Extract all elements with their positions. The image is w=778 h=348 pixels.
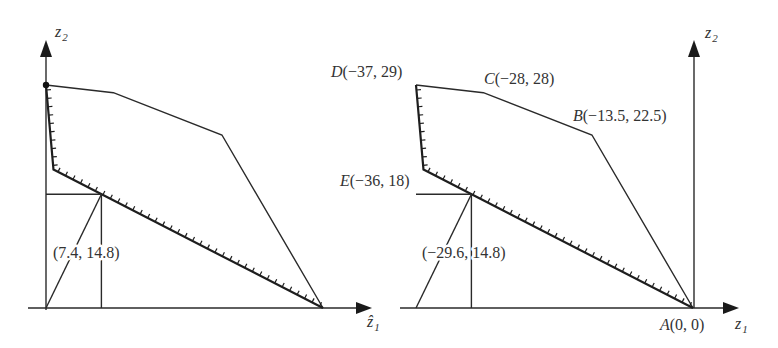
left-ideal-point-label: (7.4, 14.8) <box>53 244 120 262</box>
point-label-c: C(−28, 28) <box>484 70 554 88</box>
left-y-axis-arrow-icon <box>40 40 52 57</box>
left-frontier-line <box>46 85 323 308</box>
left-y-axis-label: z2 <box>54 23 68 43</box>
left-marks <box>43 82 323 308</box>
point-label-e: E(−36, 18) <box>339 172 409 190</box>
point-label-a: A(0, 0) <box>659 316 704 334</box>
left-highlight-point <box>43 82 49 88</box>
left-x-axis-label: ẑ1 <box>366 313 380 333</box>
figure-canvas: z2 ẑ1 (7.4, 14.8) z2 z1 D(−37, 29) C(−28… <box>0 0 778 348</box>
right-x-axis-arrow-icon <box>723 302 739 314</box>
point-label-d: D(−37, 29) <box>330 63 402 81</box>
right-y-axis-arrow-icon <box>688 40 700 57</box>
right-y-axis-label: z2 <box>704 24 718 44</box>
point-label-b: B(−13.5, 22.5) <box>573 107 666 125</box>
left-hatched-boundary <box>46 85 323 308</box>
left-panel: z2 ẑ1 (7.4, 14.8) <box>28 23 380 333</box>
right-x-axis-label: z1 <box>734 315 748 335</box>
right-ideal-point-label: (−29.6, 14.8) <box>422 244 506 262</box>
right-panel: z2 z1 D(−37, 29) C(−28, 28) B(−13.5, 22.… <box>330 24 748 335</box>
